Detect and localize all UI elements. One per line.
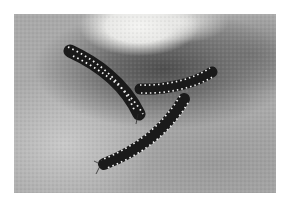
millipede-photo [14, 14, 276, 193]
stone-texture [14, 14, 276, 193]
millipedes-illustration [14, 14, 276, 193]
